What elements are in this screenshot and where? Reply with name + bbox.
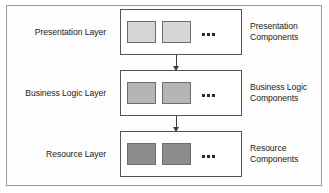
component-label-line1: Business Logic xyxy=(250,82,314,93)
arrow-business-to-resource xyxy=(172,116,181,132)
layer-label-business-logic: Business Logic Layer xyxy=(8,70,111,116)
component-label-line1: Resource xyxy=(250,143,314,154)
component-box[interactable] xyxy=(162,143,191,165)
layer-label-resource: Resource Layer xyxy=(8,131,111,177)
component-box[interactable] xyxy=(127,21,156,43)
arrow-presentation-to-business xyxy=(172,55,181,71)
component-label-line2: Components xyxy=(250,154,314,165)
component-label-presentation: Presentation Components xyxy=(250,9,314,55)
component-box[interactable] xyxy=(127,82,156,104)
ellipsis-icon xyxy=(202,94,215,97)
component-label-line2: Components xyxy=(250,93,314,104)
ellipsis-icon xyxy=(202,33,215,36)
component-label-line2: Components xyxy=(250,32,314,43)
component-group-resource xyxy=(127,138,215,169)
component-label-line1: Presentation xyxy=(250,21,314,32)
component-box[interactable] xyxy=(162,82,191,104)
diagram-canvas: Presentation Layer Presentation Componen… xyxy=(0,0,329,193)
layer-box-business-logic[interactable] xyxy=(120,70,242,116)
component-group-business-logic xyxy=(127,77,215,108)
component-label-business-logic: Business Logic Components xyxy=(250,70,314,116)
component-group-presentation xyxy=(127,16,215,47)
layer-box-presentation[interactable] xyxy=(120,9,242,55)
ellipsis-icon xyxy=(202,155,215,158)
layer-row-presentation: Presentation Layer Presentation Componen… xyxy=(8,9,308,55)
layer-row-business-logic: Business Logic Layer Business Logic Comp… xyxy=(8,70,308,116)
layer-row-resource: Resource Layer Resource Components xyxy=(8,131,308,177)
layer-label-presentation: Presentation Layer xyxy=(8,9,111,55)
layer-box-resource[interactable] xyxy=(120,131,242,177)
component-box[interactable] xyxy=(162,21,191,43)
component-label-resource: Resource Components xyxy=(250,131,314,177)
component-box[interactable] xyxy=(127,143,156,165)
